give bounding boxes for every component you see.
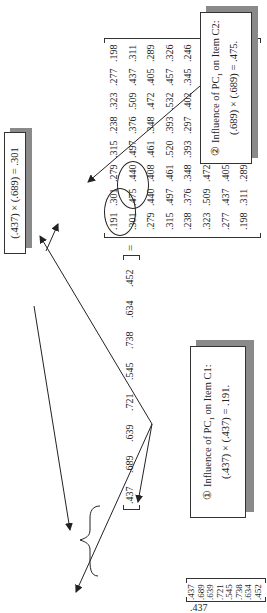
matrix-cell: .509 (127, 93, 138, 111)
row-vector-cell: .721 (124, 394, 135, 412)
matrix-cell: .461 (145, 141, 156, 159)
matrix-cell: .437 (127, 69, 138, 87)
left-bracket (123, 505, 140, 510)
callout-item-c1: ① Influence of PC1 on Item C1: (.437) × … (190, 346, 246, 518)
callout-line1: ① Influence of PC1 on Item C1: (201, 347, 219, 517)
matrix-cell: .279 (145, 213, 156, 231)
callout-text: (.437) × (.689) = .301 (9, 147, 20, 238)
matrix-cell: .323 (201, 213, 212, 231)
matrix-cell: .402 (182, 93, 193, 111)
row-vector-cell: .437 (124, 487, 135, 505)
matrix-cell: .277 (220, 213, 231, 231)
matrix-cell: .326 (164, 45, 175, 63)
highlight-ellipse-row2 (117, 161, 149, 209)
matrix-cell: .509 (201, 189, 212, 207)
matrix-cell: .315 (108, 141, 119, 159)
matrix-cell: .472 (145, 93, 156, 111)
matrix-cell: .393 (164, 117, 175, 135)
callout-item-c2: ② Influence of PC1 on Item C2: (.689) × … (200, 12, 252, 164)
matrix-cell: .437 (220, 189, 231, 207)
row-vector-cell: .639 (124, 425, 135, 443)
equals-sign: = (124, 245, 136, 251)
left-bracket (104, 233, 261, 238)
matrix-cell: .238 (108, 117, 119, 135)
right-bracket (123, 255, 140, 260)
matrix-cell: .497 (164, 189, 175, 207)
matrix-cell: .297 (182, 117, 193, 135)
callout-line1: ② Influence of PC1 on Item C2: (209, 13, 227, 163)
matrix-cell: .348 (145, 117, 156, 135)
matrix-cell: .277 (108, 69, 119, 87)
matrix-cell: .311 (127, 45, 138, 62)
row-vector-cell: .689 (124, 456, 135, 474)
circled-two-marker: ② (210, 146, 221, 156)
column-vector-cell: .437 (190, 602, 208, 613)
matrix-cell: .461 (164, 165, 175, 183)
callout-product-301: (.437) × (.689) = .301 (4, 132, 26, 254)
matrix-cell: .472 (201, 165, 212, 183)
matrix-cell: .405 (145, 69, 156, 87)
matrix-cell: .497 (127, 141, 138, 159)
matrix-cell: .405 (220, 165, 231, 183)
matrix-cell: .323 (108, 93, 119, 111)
matrix-cell: .289 (238, 165, 249, 183)
matrix-cell: .345 (182, 69, 193, 87)
matrix-cell: .532 (164, 93, 175, 111)
matrix-cell: .315 (164, 213, 175, 231)
matrix-cell: .348 (182, 165, 193, 183)
matrix-cell: .246 (182, 45, 193, 63)
matrix-cell: .393 (182, 141, 193, 159)
callout-line2: (.689) × (.689) = .475. (227, 13, 241, 163)
column-vector-stack: .437 .689 .639 .721 .545 .738 .634 .452 (187, 574, 263, 600)
row-vector-cell: .545 (124, 363, 135, 381)
matrix-cell: .198 (108, 45, 119, 63)
circled-one-marker: ① (202, 490, 213, 500)
matrix-cell: .289 (145, 45, 156, 63)
row-vector-cell: .738 (124, 332, 135, 350)
matrix-cell: .238 (182, 213, 193, 231)
row-vector-cell: .634 (124, 301, 135, 319)
matrix-cell: .311 (238, 189, 249, 206)
matrix-cell: .376 (182, 189, 193, 207)
column-vector-cell: .452 (254, 574, 264, 600)
matrix-cell: .198 (238, 213, 249, 231)
matrix-cell: .376 (127, 117, 138, 135)
callout-line2: (.437) × (.437) = .191. (219, 347, 233, 517)
matrix-cell: .457 (164, 69, 175, 87)
row-vector-cell: .452 (124, 270, 135, 288)
row-vector: .437 .689 .639 .721 .545 .738 .634 .452 (124, 255, 138, 510)
matrix-cell: .520 (164, 141, 175, 159)
